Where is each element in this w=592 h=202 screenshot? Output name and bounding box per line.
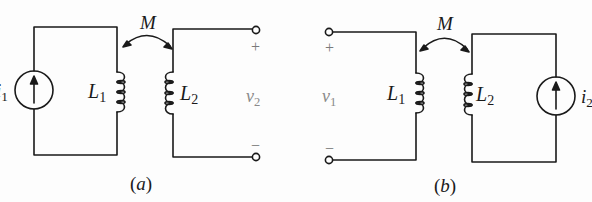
panel-b-terminal-plus [325,28,332,35]
panel-a-mutual-arc-icon [126,35,170,46]
panel-b-l1-label: L1 [387,83,405,107]
panel-a-source-label: i1 [0,81,8,103]
panel-a-caption: (a) [130,174,152,193]
panel-a-l1-coil-icon [117,72,125,112]
panel-a-circuit [15,26,260,160]
panel-b-terminal-minus [325,156,332,163]
panel-a-voltage-label: v2 [246,87,260,109]
coupled-inductor-figure: M i1 L1 L2 v2 + − (a) M v1 L1 L2 i2 + − … [0,0,592,202]
panel-b-caption: (b) [434,176,456,195]
panel-b-plus-sign: + [325,40,334,56]
panel-a-terminal-plus [252,26,259,33]
panel-a-mutual-label: M [140,13,156,32]
panel-b-mutual-arc-icon [423,38,467,49]
panel-a-l1-label: L1 [88,81,106,105]
panel-a-l2-label: L2 [180,83,198,107]
panel-a-l2-coil-icon [166,72,174,114]
panel-a-minus-sign: − [251,138,260,154]
panel-b-voltage-label: v1 [322,87,336,109]
panel-b-circuit [325,28,575,163]
panel-b-l2-label: L2 [476,84,494,108]
panel-b-l1-coil-icon [416,73,424,113]
panel-b-source-label: i2 [581,87,592,109]
panel-b-minus-sign: − [325,141,334,157]
panel-a-terminal-minus [252,153,259,160]
panel-a-plus-sign: + [251,39,260,55]
panel-b-mutual-label: M [437,14,453,33]
